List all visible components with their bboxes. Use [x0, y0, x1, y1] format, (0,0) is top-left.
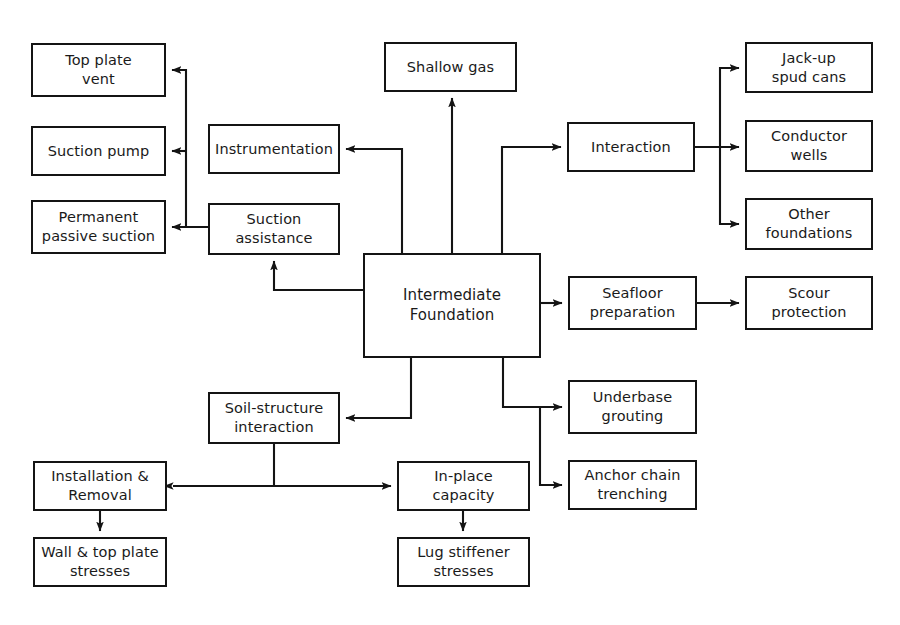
node-scour-protection[interactable]: Scour protection [745, 276, 873, 330]
node-underbase-grouting[interactable]: Underbase grouting [568, 380, 697, 434]
connector-center-to-soil-structure [346, 358, 411, 418]
node-jack-up-spud-cans[interactable]: Jack-up spud cans [745, 42, 873, 93]
node-label: In-place capacity [432, 467, 494, 504]
node-label: Other foundations [766, 205, 853, 242]
node-label: Instrumentation [215, 140, 333, 159]
node-label: Wall & top plate stresses [41, 543, 159, 580]
node-label: Soil-structure interaction [225, 399, 324, 436]
node-intermediate-foundation[interactable]: Intermediate Foundation [363, 253, 541, 358]
node-label: Underbase grouting [593, 388, 672, 425]
node-label: Conductor wells [771, 127, 847, 164]
connector-trunk-to-top-plate-vent [172, 70, 186, 227]
connector-center-to-anchor-chain [540, 407, 562, 485]
node-interaction[interactable]: Interaction [567, 122, 695, 172]
node-lug-stiffener-stresses[interactable]: Lug stiffener stresses [397, 537, 530, 587]
node-shallow-gas[interactable]: Shallow gas [384, 42, 517, 92]
node-label: Top plate vent [65, 51, 132, 88]
node-label: Permanent passive suction [42, 208, 155, 245]
node-label: Suction pump [48, 142, 150, 161]
node-label: Jack-up spud cans [772, 49, 846, 86]
connector-center-to-interaction [502, 147, 561, 253]
node-label: Lug stiffener stresses [417, 543, 510, 580]
node-wall-and-top-plate-stresses[interactable]: Wall & top plate stresses [33, 537, 167, 587]
node-permanent-passive-suction[interactable]: Permanent passive suction [31, 200, 166, 254]
node-label: Intermediate Foundation [403, 286, 501, 324]
node-soil-structure-interaction[interactable]: Soil-structure interaction [208, 392, 340, 444]
node-anchor-chain-trenching[interactable]: Anchor chain trenching [568, 460, 697, 510]
node-label: Shallow gas [407, 58, 494, 77]
node-instrumentation[interactable]: Instrumentation [208, 124, 340, 174]
node-other-foundations[interactable]: Other foundations [745, 198, 873, 250]
node-installation-and-removal[interactable]: Installation & Removal [33, 461, 167, 511]
connector-center-to-underbase [503, 358, 562, 407]
node-suction-pump[interactable]: Suction pump [31, 126, 166, 176]
flow-diagram-canvas: Top plate vent Suction pump Permanent pa… [0, 0, 900, 625]
connector-trunk-to-other-foundations [720, 147, 739, 224]
node-label: Interaction [591, 138, 671, 157]
node-label: Suction assistance [235, 210, 312, 247]
node-conductor-wells[interactable]: Conductor wells [745, 120, 873, 172]
node-suction-assistance[interactable]: Suction assistance [208, 203, 340, 255]
node-label: Installation & Removal [51, 467, 149, 504]
node-label: Anchor chain trenching [584, 466, 680, 503]
connector-center-to-suction-assistance [274, 261, 363, 290]
node-label: Seafloor preparation [590, 284, 676, 321]
node-seafloor-preparation[interactable]: Seafloor preparation [568, 276, 697, 330]
node-top-plate-vent[interactable]: Top plate vent [31, 43, 166, 97]
node-in-place-capacity[interactable]: In-place capacity [397, 461, 530, 511]
connector-center-to-instrumentation [346, 149, 402, 253]
node-label: Scour protection [771, 284, 846, 321]
connector-trunk-to-jackup [720, 68, 739, 147]
